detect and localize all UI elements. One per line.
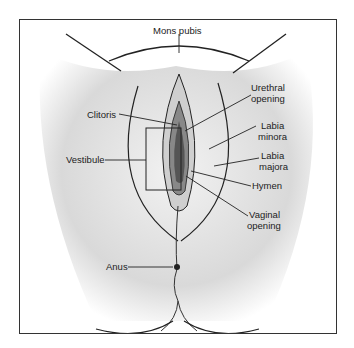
label-labia-minora-1: Labia (261, 120, 284, 131)
label-anus: Anus (106, 261, 128, 272)
label-hymen: Hymen (252, 180, 282, 191)
label-labia-minora-2: minora (258, 131, 287, 142)
label-vestibule: Vestibule (66, 154, 105, 165)
label-vaginal-opening-2: opening (247, 220, 281, 231)
label-clitoris: Clitoris (87, 109, 116, 120)
anatomy-illustration (20, 20, 336, 333)
diagram-frame: Mons pubis Clitoris Urethral opening Lab… (19, 19, 337, 334)
label-vaginal-opening-1: Vaginal (249, 209, 280, 220)
label-labia-majora-2: majora (259, 161, 288, 172)
label-mons-pubis: Mons pubis (153, 25, 202, 36)
label-urethral-opening-2: opening (251, 93, 285, 104)
label-urethral-opening-1: Urethral (251, 82, 285, 93)
label-labia-majora-1: Labia (261, 150, 284, 161)
